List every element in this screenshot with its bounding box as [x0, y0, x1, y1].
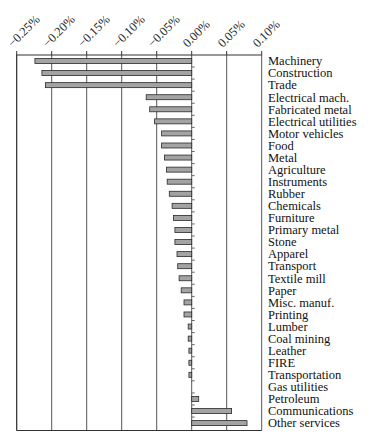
x-tick-label: 0.05%: [215, 17, 248, 50]
bar: [189, 360, 192, 365]
bar: [42, 71, 192, 76]
bar: [169, 191, 191, 196]
bar: [188, 336, 192, 341]
bar: [184, 300, 192, 305]
bar: [150, 107, 192, 112]
bar: [172, 203, 192, 208]
bar: [162, 131, 192, 136]
bar: [175, 227, 192, 232]
x-tick-label: −0.15%: [75, 12, 113, 50]
bar: [192, 421, 247, 426]
category-label: Other services: [268, 416, 340, 430]
bar: [181, 288, 192, 293]
bar: [175, 240, 192, 245]
bar: [177, 252, 192, 257]
x-tick-label: −0.05%: [145, 12, 183, 50]
bar: [184, 312, 192, 317]
x-tick-label: −0.20%: [40, 12, 78, 50]
plot-frame: [17, 55, 262, 431]
bar: [155, 119, 192, 124]
bar: [174, 215, 192, 220]
bar: [167, 167, 192, 172]
x-tick-label: −0.25%: [5, 12, 43, 50]
x-axis-ticks: −0.25%−0.20%−0.15%−0.10%−0.05%0.00%0.05%…: [5, 12, 283, 55]
bar: [192, 396, 199, 401]
bar: [162, 143, 192, 148]
bar: [192, 409, 232, 414]
bar-chart: −0.25%−0.20%−0.15%−0.10%−0.05%0.00%0.05%…: [0, 0, 377, 445]
bar: [45, 83, 191, 88]
x-tick-label: 0.00%: [180, 17, 213, 50]
bar: [179, 276, 192, 281]
x-tick-label: 0.10%: [250, 17, 283, 50]
bar: [188, 324, 192, 329]
bar: [164, 155, 191, 160]
x-tick-label: −0.10%: [110, 12, 148, 50]
gridlines: [17, 55, 262, 431]
bar: [189, 372, 192, 377]
bar: [146, 95, 192, 100]
bar: [167, 179, 192, 184]
category-labels: MachineryConstructionTradeElectrical mac…: [268, 54, 357, 430]
bars: [35, 59, 247, 426]
bar: [178, 264, 192, 269]
bar: [189, 348, 192, 353]
bar: [35, 59, 192, 64]
